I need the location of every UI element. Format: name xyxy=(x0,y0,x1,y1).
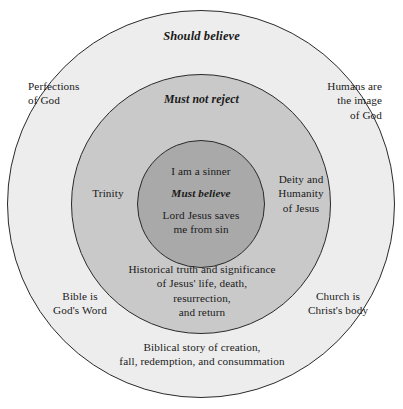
concentric-belief-diagram: Should believe Perfections of God Humans… xyxy=(0,0,403,409)
outer-label-biblical-story-of-creation: Biblical story of creation, fall, redemp… xyxy=(44,340,360,369)
middle-label-historical-truth-and-significance: Historical truth and significance of Jes… xyxy=(96,262,308,319)
inner-circle-must-believe xyxy=(137,140,265,268)
middle-label-deity-and-humanity-of-jesus: Deity and Humanity of Jesus xyxy=(262,172,340,215)
tier-label-should-believe: Should believe xyxy=(0,28,403,44)
inner-label-i-am-a-sinner: I am a sinner xyxy=(137,164,265,178)
middle-label-trinity: Trinity xyxy=(72,186,144,200)
tier-label-must-not-reject: Must not reject xyxy=(0,92,403,107)
tier-label-must-believe: Must believe xyxy=(137,186,265,200)
inner-label-lord-jesus-saves-me-from-sin: Lord Jesus saves me from sin xyxy=(131,208,271,237)
